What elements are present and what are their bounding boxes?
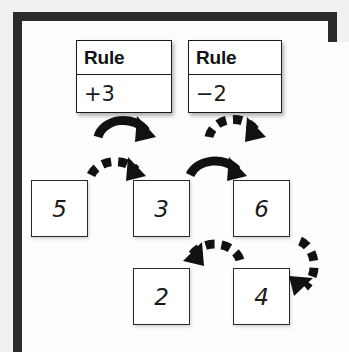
number-square-5: 5 <box>31 180 88 237</box>
number-square-6: 6 <box>233 180 290 237</box>
worksheet-page: Rule +3 Rule −2 5 3 6 2 4 <box>0 0 349 352</box>
rule-card-header: Rule <box>77 41 171 75</box>
rule-card-operation: −2 <box>189 75 281 113</box>
number-square-4: 4 <box>233 268 290 325</box>
number-square-3: 3 <box>133 180 190 237</box>
rule-card-add-3: Rule +3 <box>76 40 172 113</box>
rule-card-subtract-2: Rule −2 <box>188 40 282 113</box>
rule-card-operation: +3 <box>77 75 171 113</box>
number-square-2: 2 <box>133 268 190 325</box>
rule-card-header: Rule <box>189 41 281 75</box>
